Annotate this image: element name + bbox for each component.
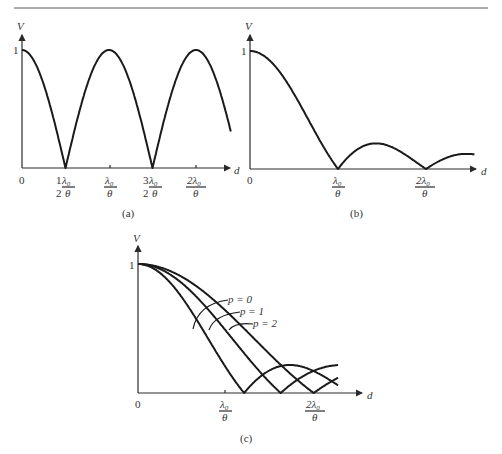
legend-p2: p = 2 [252,317,277,329]
y-tick-1: 1 [241,45,247,57]
x-axis-label: d [234,164,240,176]
legend-p0: p = 0 [227,293,252,305]
svg-text:θ: θ [107,187,113,199]
x-tick-1: λ0 θ [104,174,117,199]
svg-text:2λ0: 2λ0 [187,174,201,188]
x-tick-0: 0 [247,174,253,186]
x-tick-0: 0 [135,398,141,410]
x-axis-label: d [481,165,487,177]
svg-text:2λ0: 2λ0 [306,398,320,412]
leader-p0 [193,300,228,329]
svg-text:2λ0: 2λ0 [416,174,430,188]
svg-text:λ0: λ0 [104,174,114,188]
svg-text:2: 2 [56,187,62,199]
svg-text:λ0: λ0 [219,398,229,412]
svg-text:λ0: λ0 [61,174,71,188]
x-axis-label: d [367,389,373,401]
x-tick-2: 2λ0 θ [305,398,325,423]
y-tick-1: 1 [13,44,19,56]
x-tick-2: 2λ0 θ [186,174,206,199]
panel-a: V d 1 0 1 2 λ0 θ λ0 θ 3 2 λ0 θ 2λ0 θ [13,20,240,220]
svg-text:2: 2 [143,187,149,199]
svg-text:λ0: λ0 [148,174,158,188]
caption-b: (b) [350,207,363,220]
curve-a [22,50,231,168]
x-tick-1: λ0 θ [219,398,232,423]
svg-text:θ: θ [422,187,428,199]
svg-text:θ: θ [335,187,341,199]
svg-text:θ: θ [152,187,158,199]
panel-b: V d 1 0 λ0 θ 2λ0 θ (b) [241,20,487,220]
svg-text:θ: θ [222,411,228,423]
figure: V d 1 0 1 2 λ0 θ λ0 θ 3 2 λ0 θ 2λ0 θ [0,0,502,454]
x-tick-1: λ0 θ [332,174,345,199]
legend-p1: p = 1 [239,305,264,317]
svg-text:1: 1 [56,174,62,186]
x-tick-2: 2λ0 θ [415,174,435,199]
x-tick-half: 1 2 λ0 θ [56,174,75,199]
x-tick-three-half: 3 2 λ0 θ [143,174,162,199]
y-axis-label: V [245,20,253,32]
curve-p1 [138,264,338,393]
svg-text:θ: θ [193,187,199,199]
y-axis-label: V [17,20,25,32]
caption-c: (c) [240,432,253,445]
curve-b [250,51,474,169]
caption-a: (a) [122,207,135,220]
svg-text:θ: θ [312,411,318,423]
x-tick-0: 0 [19,174,25,186]
svg-text:θ: θ [65,187,71,199]
svg-text:λ0: λ0 [332,174,342,188]
y-axis-label: V [133,232,141,244]
y-tick-1: 1 [129,259,135,271]
panel-c: V d 1 0 λ0 θ 2λ0 θ (c) p = 0 p = 1 p = 2 [129,232,373,445]
